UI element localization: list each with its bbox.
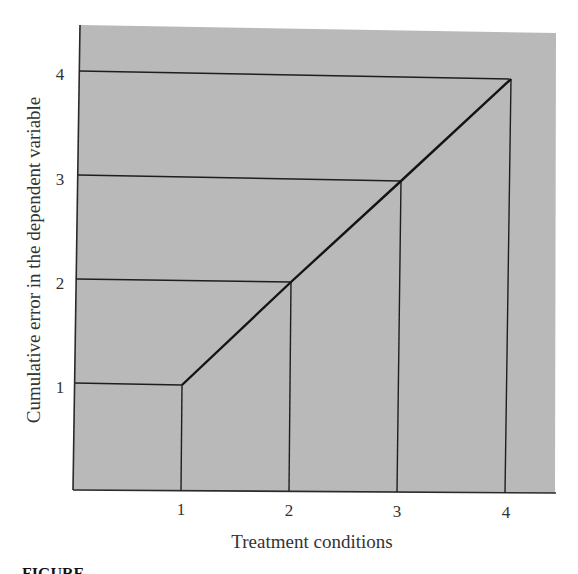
v-line-x1 <box>181 385 182 491</box>
figure-caption-stub: FIGURE <box>22 566 84 574</box>
x-tick-4: 4 <box>502 503 511 522</box>
x-axis-title: Treatment conditions <box>231 531 392 552</box>
x-tick-2: 2 <box>285 501 294 520</box>
y-tick-4: 4 <box>56 65 65 84</box>
y-tick-2: 2 <box>56 274 65 293</box>
y-axis-title: Cumulative error in the dependent variab… <box>23 97 44 424</box>
x-tick-3: 3 <box>393 502 402 521</box>
y-tick-3: 3 <box>56 170 65 189</box>
y-tick-1: 1 <box>56 378 65 397</box>
x-tick-1: 1 <box>177 500 186 519</box>
cumulative-error-chart: 4 3 2 1 1 2 3 4 Treatment conditions Cum… <box>0 0 578 574</box>
